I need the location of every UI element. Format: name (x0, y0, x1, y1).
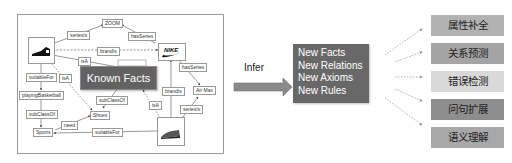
task-semantic-understanding: 语义理解 (431, 127, 504, 148)
task-attribute-completion: 属性补全 (431, 15, 504, 36)
known-facts-box: Known Facts (80, 66, 157, 90)
edge-series-is: seriesIs (67, 31, 90, 40)
edge-brand-is: brandIs (97, 47, 120, 56)
output-new-axioms: New Axioms (298, 72, 369, 85)
infer-label: Infer (244, 62, 264, 73)
task-error-detection: 错误检测 (431, 71, 504, 92)
node-sports: Sports (33, 128, 53, 137)
node-zoom: ZOOM (102, 19, 123, 28)
edge-suitable-for: suitableFor (92, 128, 123, 137)
node-playing-basketball: playingBasketball (19, 91, 64, 100)
edge-sub-class-of: subClassOf (96, 96, 128, 105)
edge-sub-class-of: subClassOf (26, 110, 58, 119)
edge-need: need (61, 121, 78, 130)
sneaker-icon (29, 38, 54, 63)
sneaker-icon (158, 118, 184, 145)
task-query-expansion: 问句扩展 (431, 99, 504, 120)
output-new-relations: New Relations (298, 60, 369, 73)
new-knowledge-box: New Facts New Relations New Axioms New R… (293, 44, 369, 103)
running-shoe-image (157, 117, 185, 146)
task-relation-prediction: 关系预测 (431, 43, 504, 64)
output-new-facts: New Facts (298, 47, 369, 60)
node-shoes: Shoes (90, 111, 110, 120)
output-new-rules: New Rules (298, 85, 369, 98)
edge-suitable-for: suitableFor (26, 73, 57, 82)
infer-arrow-icon (234, 78, 292, 96)
edge-brand-is: brandIs (162, 87, 185, 96)
edge-has-series: hasSeries (128, 32, 156, 41)
nike-swoosh-icon: NIKE (159, 44, 185, 60)
node-air-max: Air Max (193, 86, 216, 95)
nike-logo-image: NIKE (158, 43, 186, 61)
svg-text:NIKE: NIKE (164, 47, 179, 53)
edge-is-a: isA (78, 57, 91, 66)
edge-is-a: isA (59, 74, 72, 83)
edge-has-series: hasSeries (179, 63, 207, 72)
edge-series-is: seriesIs (180, 105, 203, 114)
basketball-shoe-image (28, 37, 55, 64)
edge-is-a: isA (149, 101, 162, 110)
